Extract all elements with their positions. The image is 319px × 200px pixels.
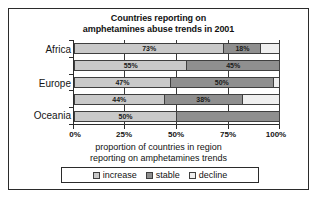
- bar-segment-decline: [243, 94, 280, 105]
- x-axis-label-100: 100%: [266, 130, 286, 139]
- y-axis-label-europe: Europe: [39, 78, 71, 89]
- legend-swatch-icon: [189, 172, 196, 179]
- x-tick-75: [228, 125, 229, 129]
- plot-area: 73% 18% 55% 45% 47% 50: [73, 40, 280, 125]
- table-row: 47% 50%: [74, 77, 280, 88]
- x-tick-50: [176, 125, 177, 129]
- table-row: 55% 45%: [74, 60, 280, 71]
- bar-segment-label: 47%: [115, 79, 129, 87]
- legend-label: decline: [199, 170, 228, 180]
- y-axis-label-oceania: Oceania: [34, 110, 71, 121]
- chart-title-line-2: amphetamines abuse trends in 2001: [9, 24, 308, 35]
- x-axis-label-50: 50%: [168, 130, 184, 139]
- x-axis-title-line-2: reporting on amphetamines trends: [9, 153, 308, 164]
- bar-segment-stable: 50%: [171, 77, 274, 88]
- y-axis-labels: Africa Europe Oceania: [9, 40, 71, 125]
- table-row: 73% 18%: [74, 43, 280, 54]
- x-tick-25: [124, 125, 125, 129]
- bar-segment-label: 50%: [118, 113, 132, 121]
- bar-segment-label: 18%: [235, 45, 249, 53]
- bar-segment-label: 38%: [196, 96, 210, 104]
- legend-item-increase[interactable]: increase: [93, 170, 137, 180]
- chart-title-line-1: Countries reporting on: [9, 13, 308, 24]
- x-axis-label-0: 0%: [69, 130, 81, 139]
- bar-segment-decline: [274, 77, 280, 88]
- legend-item-stable[interactable]: stable: [146, 170, 180, 180]
- bar-segment-label: 45%: [226, 62, 240, 70]
- x-tick-100: [279, 125, 280, 129]
- legend-swatch-icon: [146, 172, 153, 179]
- table-row: 44% 38%: [74, 94, 280, 105]
- bar-segment-stable: [177, 111, 280, 122]
- bar-segment-label: 44%: [112, 96, 126, 104]
- bar-segment-label: 50%: [215, 79, 229, 87]
- y-tick-4: [69, 107, 73, 108]
- bar-segment-increase: 44%: [74, 94, 165, 105]
- table-row: 50%: [74, 111, 280, 122]
- bar-segment-increase: 50%: [74, 111, 177, 122]
- bar-segment-increase: 47%: [74, 77, 171, 88]
- x-axis-title: proportion of countries in region report…: [9, 142, 308, 164]
- y-axis-label-africa: Africa: [45, 44, 71, 55]
- x-axis-label-25: 25%: [116, 130, 132, 139]
- legend-swatch-icon: [93, 172, 100, 179]
- x-axis-title-line-1: proportion of countries in region: [9, 142, 308, 153]
- y-tick-2: [69, 74, 73, 75]
- bar-segment-stable: 38%: [165, 94, 243, 105]
- bar-segment-label: 73%: [142, 45, 156, 53]
- bar-segment-stable: 45%: [187, 60, 280, 71]
- bar-segment-increase: 73%: [74, 43, 224, 54]
- legend-item-decline[interactable]: decline: [189, 170, 228, 180]
- bar-segment-decline: [261, 43, 280, 54]
- x-axis-label-75: 75%: [220, 130, 236, 139]
- chart-frame: Countries reporting on amphetamines abus…: [8, 8, 309, 190]
- legend-label: stable: [156, 170, 180, 180]
- x-tick-0: [73, 125, 74, 129]
- y-tick-0: [69, 40, 73, 41]
- y-tick-3: [69, 90, 73, 91]
- chart-legend: increase stable decline: [61, 167, 259, 183]
- legend-label: increase: [103, 170, 137, 180]
- x-axis-labels: 0% 25% 50% 75% 100%: [73, 130, 280, 142]
- chart-title: Countries reporting on amphetamines abus…: [9, 13, 308, 35]
- bar-segment-label: 55%: [124, 62, 138, 70]
- bar-segment-stable: 18%: [224, 43, 261, 54]
- y-tick-1: [69, 57, 73, 58]
- bar-segment-increase: 55%: [74, 60, 187, 71]
